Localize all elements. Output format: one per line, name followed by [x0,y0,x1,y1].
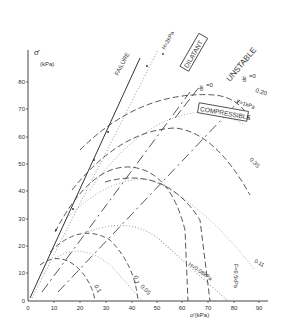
y-tick-labels: 0 10 20 30 40 50 60 70 80 [18,79,25,304]
curve-f1kpa [90,112,245,190]
f011-label: 0.11 [254,258,266,268]
f005-label: 0.05 [139,283,152,296]
x-tick: 70 [205,305,212,311]
h008-label: H=0.08kPa [187,261,214,282]
y-tick: 50 [18,161,25,167]
x-tick: 30 [103,305,110,311]
x-tick: 50 [154,305,161,311]
dh-zero-left: dσ =0 [198,82,214,91]
curve-0.1-small [40,259,95,301]
x-tick-labels: 0 10 20 30 40 50 60 70 80 90 [26,305,263,311]
y-axis-symbol: σ̄ [34,48,41,57]
f020-label: 0.20 [255,87,269,97]
svg-text:dσ: dσ [198,84,204,91]
x-tick: 40 [129,305,136,311]
y-tick: 20 [18,243,25,249]
y-tick: 70 [18,106,25,112]
x-tick: 20 [77,305,84,311]
x-tick: 80 [231,305,238,311]
curve-0.35 [72,128,250,195]
f05kpa-label: F=0.5kPa [233,264,239,289]
f01a-label: 0.1 [133,275,140,285]
curve-0.20 [80,95,250,150]
curve-0.05 [55,251,142,301]
y-tick: 0 [22,298,26,304]
y-tick: 60 [18,134,25,140]
x-axis-label: σ'(kPa) [190,312,209,318]
dh-zero-line-right [58,100,240,292]
x-tick: 0 [26,305,30,311]
unstable-line [175,86,200,118]
y-tick: 40 [18,188,25,194]
dh-zero-right: dσ =0 [241,73,257,82]
y-axis-unit: (kPa) [40,61,54,67]
h2-line [32,50,158,298]
f01b-label: 0.1 [93,284,103,295]
f1kpa-label: F=1kPa [236,98,257,110]
y-tick: 80 [18,79,25,85]
x-tick: 60 [179,305,186,311]
chart: σ̄ (kPa) σ'(kPa) 0 10 20 30 40 50 60 70 … [0,0,283,331]
curve-0.11 [65,180,255,271]
x-tick: 90 [256,305,263,311]
dh-zero-label: =0 [249,73,257,79]
dh-zero-line-left [42,92,190,292]
f035-label: 0.35 [248,156,261,169]
curve-0.1 [50,233,138,301]
dh-zero-label: =0 [206,82,214,88]
curve-h0.08kpa [85,225,228,301]
x-tick: 10 [51,305,58,311]
y-tick: 30 [18,216,25,222]
y-tick: 10 [18,270,25,276]
h2-label: H=2kPa [161,29,176,50]
curve-f0.5kpa [105,178,210,301]
failure-label: FAILURE [114,52,131,77]
svg-text:dσ: dσ [241,75,247,82]
dilatant-box: DILATANT [180,33,208,71]
